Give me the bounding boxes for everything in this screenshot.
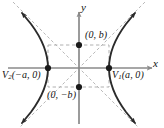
x-axis-label: x	[153, 58, 158, 69]
hyperbola-figure: y x V2(−a, 0) V1(a, 0) (0, b) (0, −b)	[0, 0, 164, 128]
vertex-left-coords: (−a, 0)	[12, 69, 41, 80]
point-covertex-bottom	[76, 84, 82, 90]
point-covertex-top	[76, 42, 82, 48]
hyperbola-graph-svg	[0, 0, 164, 128]
left-branch-upper	[22, 13, 48, 68]
vertex-left-label: V2(−a, 0)	[2, 70, 41, 81]
vertex-right-coords: (a, 0)	[122, 69, 144, 80]
covertex-top-label: (0, b)	[85, 30, 107, 40]
point-vertex-left	[45, 65, 51, 71]
vertex-right-label: V1(a, 0)	[112, 70, 144, 81]
covertex-bottom-label: (0, −b)	[47, 90, 76, 100]
right-branch-upper	[109, 13, 135, 68]
y-axis-label: y	[81, 2, 86, 13]
